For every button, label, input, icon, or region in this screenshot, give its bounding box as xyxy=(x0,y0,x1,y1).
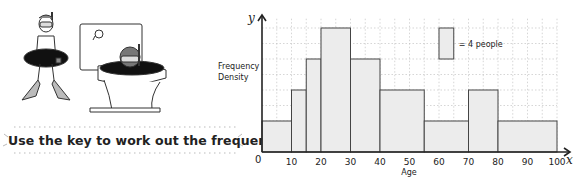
x-tick-label: 80 xyxy=(492,157,504,167)
histogram-chart: = 4 people 102030405060708090100 Age Fre… xyxy=(0,0,580,185)
histogram-bar xyxy=(424,121,468,152)
x-tick-label: 20 xyxy=(315,157,327,167)
histogram-bar xyxy=(351,59,381,152)
key-swatch xyxy=(439,28,454,59)
x-tick-label: 40 xyxy=(374,157,386,167)
histogram-bar xyxy=(380,90,424,152)
y-axis-symbol: y xyxy=(247,11,255,25)
x-axis-symbol: x xyxy=(566,153,573,167)
x-tick-label: 50 xyxy=(404,157,416,167)
x-tick-label: 90 xyxy=(522,157,534,167)
histogram-bar xyxy=(469,90,499,152)
histogram-bar xyxy=(498,121,557,152)
y-axis-label-line1: Frequency xyxy=(218,62,260,71)
x-tick-label: 10 xyxy=(286,157,298,167)
x-axis-label: Age xyxy=(401,168,417,177)
x-tick-label: 100 xyxy=(548,157,565,167)
y-axis-label-line2: Density xyxy=(218,73,249,82)
key-label: = 4 people xyxy=(459,40,503,49)
x-tick-label: 60 xyxy=(433,157,445,167)
origin-label: 0 xyxy=(255,154,261,165)
histogram-bar xyxy=(321,28,351,152)
x-tick-labels: 102030405060708090100 xyxy=(286,157,566,167)
chart-key: = 4 people xyxy=(439,28,503,59)
x-tick-label: 70 xyxy=(463,157,475,167)
histogram-bar xyxy=(262,121,292,152)
x-tick-label: 30 xyxy=(345,157,357,167)
histogram-bar xyxy=(306,59,321,152)
histogram-bar xyxy=(292,90,307,152)
